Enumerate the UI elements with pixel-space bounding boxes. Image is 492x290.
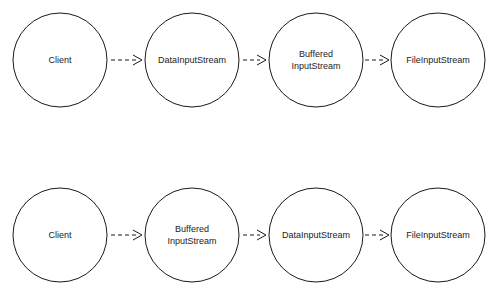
edge-datainputstream-to-bufferedinputstream-row1 <box>243 55 266 65</box>
edge-bufferedinputstream-to-fileinputstream-row1 <box>365 55 389 65</box>
node-bufferedinputstream-row2[interactable]: Buffered InputStream <box>145 188 239 282</box>
node-label: DataInputStream <box>282 230 350 240</box>
node-label: Client <box>48 230 72 240</box>
node-shape[interactable] <box>145 188 239 282</box>
node-datainputstream-row2[interactable]: DataInputStream <box>269 188 363 282</box>
node-fileinputstream-row2[interactable]: FileInputStream <box>391 188 485 282</box>
node-client-row2[interactable]: Client <box>13 188 107 282</box>
stream-decorator-diagram: Client DataInputStream Buffered InputStr… <box>0 0 492 290</box>
node-label: DataInputStream <box>158 55 226 65</box>
node-label: FileInputStream <box>406 55 470 65</box>
node-label-line1: Buffered <box>299 49 333 59</box>
node-label-line2: InputStream <box>167 236 216 246</box>
edge-client-to-bufferedinputstream-row2 <box>111 230 142 240</box>
node-datainputstream-row1[interactable]: DataInputStream <box>145 13 239 107</box>
edge-datainputstream-to-fileinputstream-row2 <box>365 230 389 240</box>
node-client-row1[interactable]: Client <box>13 13 107 107</box>
edge-client-to-datainputstream-row1 <box>111 55 142 65</box>
node-fileinputstream-row1[interactable]: FileInputStream <box>391 13 485 107</box>
node-bufferedinputstream-row1[interactable]: Buffered InputStream <box>269 13 363 107</box>
edge-bufferedinputstream-to-datainputstream-row2 <box>243 230 266 240</box>
chain-row-2: Client Buffered InputStream DataInputStr… <box>13 188 485 282</box>
chain-row-1: Client DataInputStream Buffered InputStr… <box>13 13 485 107</box>
node-label-line1: Buffered <box>175 224 209 234</box>
node-shape[interactable] <box>269 13 363 107</box>
node-label-line2: InputStream <box>291 61 340 71</box>
node-label: Client <box>48 55 72 65</box>
node-label: FileInputStream <box>406 230 470 240</box>
